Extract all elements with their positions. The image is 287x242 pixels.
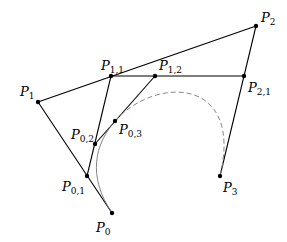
- point-p1: [36, 100, 40, 104]
- label-p03: P0,3: [118, 122, 142, 139]
- point-p03: [113, 119, 117, 123]
- label-p2: P2: [260, 10, 275, 27]
- label-p1: P1: [19, 84, 34, 101]
- bezier-curve-first-half: [96, 121, 115, 213]
- point-p0: [110, 211, 114, 215]
- label-p01: P0,1: [61, 179, 85, 196]
- point-p2: [254, 24, 258, 28]
- label-p3: P3: [222, 180, 238, 197]
- label-p02: P0,2: [70, 127, 94, 144]
- bezier-diagram: P0 P1 P2 P3 P0,1 P0,2 P0,3 P1,1 P1,2 P2,…: [0, 0, 287, 242]
- label-p21: P2,1: [247, 80, 271, 97]
- point-p3: [218, 174, 222, 178]
- point-p12: [153, 74, 157, 78]
- point-p01: [85, 174, 89, 178]
- segment-p1-p2: [38, 26, 256, 102]
- label-p0: P0: [95, 220, 111, 237]
- label-p12: P1,2: [158, 58, 182, 75]
- segment-p01-p11: [87, 76, 111, 176]
- point-labels: P0 P1 P2 P3 P0,1 P0,2 P0,3 P1,1 P1,2 P2,…: [19, 10, 275, 237]
- segment-p2-p3: [220, 26, 256, 176]
- point-p21: [242, 74, 246, 78]
- label-p11: P1,1: [100, 58, 124, 75]
